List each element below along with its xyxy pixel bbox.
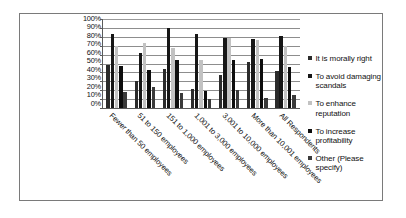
bar	[135, 81, 138, 108]
plot-canvas	[102, 19, 300, 109]
bar-group	[244, 19, 272, 108]
bar	[284, 46, 287, 108]
bar	[111, 34, 114, 108]
bar	[288, 67, 291, 108]
legend-label: Other (Please specify)	[316, 154, 383, 173]
bar	[152, 87, 155, 108]
bar	[251, 39, 254, 108]
y-axis-tick-label: 20%	[87, 82, 101, 89]
bar	[256, 40, 259, 108]
chart-legend: It is morally rightTo avoid damaging sca…	[308, 54, 382, 173]
legend-label: It is morally right	[316, 54, 372, 63]
x-axis-tick-labels: Fewer than 50 employees51 to 150 employe…	[102, 111, 300, 199]
legend-item: To avoid damaging scandals	[308, 72, 382, 91]
legend-label: To increase profitability	[316, 127, 383, 146]
legend-label: To enhance reputation	[316, 99, 383, 118]
y-axis-tick-label: 30%	[87, 74, 101, 81]
x-axis-tick-label: 51 to 150 employees	[136, 111, 191, 166]
y-axis-tick-label: 80%	[87, 31, 101, 38]
bar-group	[216, 19, 244, 108]
bar	[199, 60, 202, 108]
y-axis-tick-label: 10%	[87, 91, 101, 98]
bar	[219, 75, 222, 108]
bar	[191, 89, 194, 108]
bar	[204, 91, 207, 108]
y-axis-tick-label: 100%	[83, 15, 101, 22]
bar-group	[159, 19, 187, 108]
bar	[236, 90, 239, 108]
legend-item: Other (Please specify)	[308, 154, 382, 173]
bar	[227, 38, 230, 108]
chart-frame: 100%90%80%70%60%50%40%30%20%10%0% Fewer …	[19, 13, 383, 201]
bar	[208, 99, 211, 108]
bar	[260, 59, 263, 108]
y-axis-tick-label: 60%	[87, 48, 101, 55]
bar-group	[103, 19, 131, 108]
chart-plot-area: 100%90%80%70%60%50%40%30%20%10%0% Fewer …	[20, 14, 382, 200]
legend-label: To avoid damaging scandals	[316, 72, 383, 91]
legend-swatch-icon	[308, 74, 312, 78]
bar-group	[272, 19, 300, 108]
legend-swatch-icon	[308, 56, 312, 60]
bar	[119, 66, 122, 108]
bar	[115, 46, 118, 108]
bar	[247, 62, 250, 108]
bar	[275, 71, 278, 108]
bar-group	[131, 19, 159, 108]
bar	[106, 65, 109, 108]
bar	[171, 48, 174, 108]
bar	[175, 60, 178, 108]
bar	[163, 69, 166, 108]
legend-item: To increase profitability	[308, 127, 382, 146]
bar	[223, 38, 226, 108]
legend-item: To enhance reputation	[308, 99, 382, 118]
bar-groups	[103, 19, 300, 108]
y-axis-tick-label: 70%	[87, 40, 101, 47]
legend-swatch-icon	[308, 101, 312, 105]
bar	[195, 34, 198, 108]
y-axis-tick	[100, 108, 103, 109]
y-axis-tick-label: 90%	[87, 23, 101, 30]
bar	[264, 98, 267, 108]
bar	[143, 43, 146, 108]
legend-swatch-icon	[308, 156, 312, 160]
bar	[167, 28, 170, 108]
bar	[123, 92, 126, 108]
y-axis-tick-label: 50%	[87, 57, 101, 64]
bar	[232, 60, 235, 108]
y-axis-tick-labels: 100%90%80%70%60%50%40%30%20%10%0%	[64, 18, 101, 110]
legend-swatch-icon	[308, 129, 312, 133]
legend-item: It is morally right	[308, 54, 382, 63]
bar	[139, 53, 142, 108]
y-axis-tick-label: 40%	[87, 65, 101, 72]
bar	[292, 95, 295, 108]
bar-group	[187, 19, 215, 108]
bar	[180, 93, 183, 108]
bar	[279, 36, 282, 108]
bar	[147, 70, 150, 108]
